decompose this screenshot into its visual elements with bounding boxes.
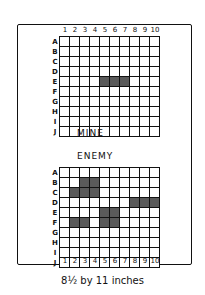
grid-cell-h9 <box>140 107 149 116</box>
grid-cell-a4 <box>90 37 99 46</box>
grid-cell-h3 <box>80 238 89 247</box>
grid-cell-f1 <box>60 87 69 96</box>
row-label: A <box>51 37 59 47</box>
grid-cell-b8 <box>130 178 139 187</box>
grid-cell-c5 <box>100 188 109 197</box>
grid-cell-e5 <box>100 208 109 217</box>
grid-cell-b6 <box>110 178 119 187</box>
grid-cell-a5 <box>100 168 109 177</box>
grid-cell-h3 <box>80 107 89 116</box>
grid-cell-c4 <box>90 57 99 66</box>
grid-cell-h7 <box>120 107 129 116</box>
grid-cell-c3 <box>80 57 89 66</box>
mine-grid <box>59 36 160 137</box>
grid-cell-f10 <box>150 218 159 227</box>
grid-cell-f8 <box>130 218 139 227</box>
grid-cell-a10 <box>150 168 159 177</box>
grid-cell-j10 <box>150 127 159 136</box>
grid-cell-i9 <box>140 117 149 126</box>
grid-cell-d6 <box>110 67 119 76</box>
grid-cell-i9 <box>140 248 149 257</box>
grid-cell-e5 <box>100 77 109 86</box>
enemy-grid <box>59 167 160 268</box>
grid-cell-j6 <box>110 127 119 136</box>
grid-cell-j7 <box>120 127 129 136</box>
grid-cell-g4 <box>90 97 99 106</box>
grid-cell-c4 <box>90 188 99 197</box>
column-label: 7 <box>120 27 130 34</box>
grid-cell-d6 <box>110 198 119 207</box>
grid-cell-f2 <box>70 218 79 227</box>
grid-cell-a3 <box>80 37 89 46</box>
column-label: 5 <box>100 27 110 34</box>
grid-cell-d5 <box>100 67 109 76</box>
column-label: 6 <box>110 258 120 265</box>
grid-cell-b3 <box>80 47 89 56</box>
grid-cell-b7 <box>120 47 129 56</box>
mine-title: MINE <box>77 128 104 138</box>
grid-cell-g6 <box>110 228 119 237</box>
grid-cell-c3 <box>80 188 89 197</box>
grid-cell-g3 <box>80 97 89 106</box>
row-label: E <box>51 77 59 87</box>
mine-column-labels: 12345678910 <box>60 27 160 34</box>
grid-cell-i10 <box>150 248 159 257</box>
grid-cell-e10 <box>150 208 159 217</box>
row-label: D <box>51 198 59 208</box>
grid-cell-h9 <box>140 238 149 247</box>
grid-cell-f7 <box>120 87 129 96</box>
grid-cell-f7 <box>120 218 129 227</box>
grid-cell-f5 <box>100 87 109 96</box>
grid-cell-d5 <box>100 198 109 207</box>
column-label: 2 <box>70 27 80 34</box>
column-label: 4 <box>90 27 100 34</box>
grid-cell-a9 <box>140 168 149 177</box>
grid-cell-f10 <box>150 87 159 96</box>
grid-cell-e6 <box>110 77 119 86</box>
grid-cell-j9 <box>140 127 149 136</box>
column-label: 1 <box>60 258 70 265</box>
grid-cell-a2 <box>70 168 79 177</box>
grid-cell-c10 <box>150 188 159 197</box>
grid-cell-g7 <box>120 97 129 106</box>
grid-cell-f9 <box>140 218 149 227</box>
grid-cell-h8 <box>130 107 139 116</box>
grid-cell-i4 <box>90 248 99 257</box>
grid-cell-i2 <box>70 248 79 257</box>
grid-cell-b2 <box>70 178 79 187</box>
column-label: 7 <box>120 258 130 265</box>
grid-cell-g10 <box>150 97 159 106</box>
grid-cell-d10 <box>150 67 159 76</box>
grid-cell-b5 <box>100 47 109 56</box>
grid-cell-h1 <box>60 238 69 247</box>
grid-cell-h6 <box>110 238 119 247</box>
grid-cell-b4 <box>90 178 99 187</box>
grid-cell-e9 <box>140 77 149 86</box>
grid-cell-f6 <box>110 87 119 96</box>
column-label: 3 <box>80 258 90 265</box>
grid-cell-c5 <box>100 57 109 66</box>
grid-cell-a9 <box>140 37 149 46</box>
grid-cell-h6 <box>110 107 119 116</box>
grid-cell-a3 <box>80 168 89 177</box>
grid-cell-d1 <box>60 67 69 76</box>
column-label: 6 <box>110 27 120 34</box>
row-label: J <box>51 258 59 268</box>
grid-cell-h5 <box>100 238 109 247</box>
grid-cell-b10 <box>150 178 159 187</box>
grid-cell-g10 <box>150 228 159 237</box>
column-label: 10 <box>150 258 160 265</box>
grid-cell-h5 <box>100 107 109 116</box>
column-label: 2 <box>70 258 80 265</box>
grid-cell-f4 <box>90 87 99 96</box>
grid-cell-a5 <box>100 37 109 46</box>
grid-cell-g2 <box>70 228 79 237</box>
grid-cell-g3 <box>80 228 89 237</box>
grid-cell-c7 <box>120 57 129 66</box>
grid-cell-a1 <box>60 168 69 177</box>
grid-cell-e3 <box>80 77 89 86</box>
row-label: C <box>51 188 59 198</box>
grid-cell-h2 <box>70 238 79 247</box>
grid-cell-f3 <box>80 218 89 227</box>
grid-cell-h8 <box>130 238 139 247</box>
